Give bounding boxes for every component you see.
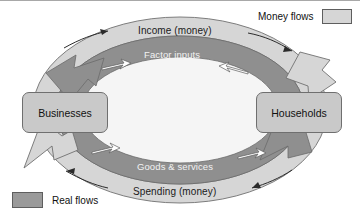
legend-real-flows-label: Real flows xyxy=(52,195,98,206)
legend-money-flows-swatch xyxy=(322,9,352,24)
legend-real-flows: Real flows xyxy=(12,192,98,208)
legend-real-flows-swatch xyxy=(12,192,43,208)
diagram-canvas: Income (money) Factor inputs Goods & ser… xyxy=(0,0,360,222)
node-businesses-label: Businesses xyxy=(38,107,92,119)
node-businesses[interactable]: Businesses xyxy=(22,92,108,133)
flow-label-goods-services: Goods & services xyxy=(137,161,213,172)
node-households-label: Households xyxy=(271,107,326,119)
legend-money-flows: Money flows xyxy=(258,9,352,24)
node-households[interactable]: Households xyxy=(256,92,342,133)
flow-label-spending-money: Spending (money) xyxy=(133,186,216,197)
legend-money-flows-label: Money flows xyxy=(258,11,314,22)
flow-label-income-money: Income (money) xyxy=(138,25,212,36)
flow-label-factor-inputs: Factor inputs xyxy=(144,49,200,60)
